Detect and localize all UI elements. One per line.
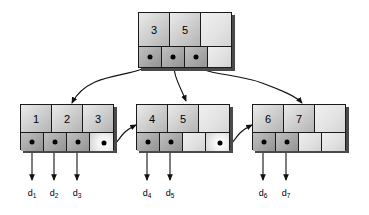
leaf-3-pointer-cell-2 (299, 133, 322, 151)
pointer-dot-icon (148, 55, 153, 60)
record-sub: 7 (287, 192, 291, 199)
root-key-cell-1: 5 (170, 13, 201, 46)
record-label-d4: d4 (143, 188, 152, 198)
root-key-cell-0: 3 (139, 13, 170, 46)
record-sub: 5 (171, 192, 175, 199)
leaf-2-key-cell-1: 5 (168, 105, 199, 132)
record-label-d7: d7 (282, 188, 291, 198)
record-sub: 3 (78, 192, 82, 199)
leaf-2-sibling-pointer-cell (206, 133, 229, 151)
leaf-3-key-cell-2 (315, 105, 345, 132)
root-pointer-cell-3 (208, 47, 231, 67)
root-key-cell-2 (201, 13, 231, 46)
pointer-dot-icon (194, 55, 199, 60)
root-node: 3 5 (138, 12, 232, 68)
pointer-dot-icon (285, 140, 290, 145)
leaf-2-pointer-row (137, 132, 229, 151)
leaf-2-pointer-cell-0 (137, 133, 160, 151)
root-pointer-cell-2 (185, 47, 208, 67)
leaf-2-key-row: 4 5 (137, 105, 229, 132)
leaf-1-pointer-cell-1 (44, 133, 67, 151)
leaf-3-pointer-row (253, 132, 345, 151)
leaf-3-pointer-cell-0 (253, 133, 276, 151)
leaf-1-key-cell-1: 2 (52, 105, 83, 132)
root-pointer-row (139, 46, 231, 67)
record-label-d3: d3 (73, 188, 82, 198)
leaf-1-pointer-cell-2 (67, 133, 90, 151)
pointer-dot-icon (53, 140, 58, 145)
record-sub: 1 (33, 192, 37, 199)
leaf-3-key-cell-0: 6 (253, 105, 284, 132)
leaf-1-key-cell-0: 1 (21, 105, 52, 132)
bplus-tree-diagram: 3 5 1 2 3 (0, 0, 369, 215)
leaf-node-3: 6 7 (252, 104, 346, 150)
leaf-1-sibling-pointer-cell (90, 133, 113, 151)
root-pointer-cell-1 (162, 47, 185, 67)
record-sub: 6 (264, 192, 268, 199)
record-sub: 4 (148, 192, 152, 199)
leaf-1-key-cell-2: 3 (83, 105, 113, 132)
leaf-1-pointer-cell-0 (21, 133, 44, 151)
record-label-d2: d2 (50, 188, 59, 198)
leaf-2-key-cell-0: 4 (137, 105, 168, 132)
leaf-2-pointer-cell-1 (160, 133, 183, 151)
leaf-1-pointer-row (21, 132, 113, 151)
leaf-1-key-row: 1 2 3 (21, 105, 113, 132)
leaf-node-2: 4 5 (136, 104, 230, 150)
leaf-3-key-cell-1: 7 (284, 105, 315, 132)
record-label-d6: d6 (259, 188, 268, 198)
pointer-dot-icon (218, 141, 223, 146)
leaf-2-key-cell-2 (199, 105, 229, 132)
pointer-dot-icon (169, 140, 174, 145)
leaf-3-pointer-cell-3 (322, 133, 345, 151)
pointer-dot-icon (262, 140, 267, 145)
root-pointer-cell-0 (139, 47, 162, 67)
leaf-node-1: 1 2 3 (20, 104, 114, 150)
pointer-dot-icon (171, 55, 176, 60)
leaf-2-pointer-cell-2 (183, 133, 206, 151)
record-sub: 2 (55, 192, 59, 199)
pointer-dot-icon (102, 141, 107, 146)
pointer-dot-icon (30, 140, 35, 145)
record-label-d1: d1 (28, 188, 37, 198)
record-label-d5: d5 (166, 188, 175, 198)
root-key-row: 3 5 (139, 13, 231, 46)
pointer-dot-icon (76, 140, 81, 145)
pointer-dot-icon (146, 140, 151, 145)
leaf-3-key-row: 6 7 (253, 105, 345, 132)
leaf-3-pointer-cell-1 (276, 133, 299, 151)
